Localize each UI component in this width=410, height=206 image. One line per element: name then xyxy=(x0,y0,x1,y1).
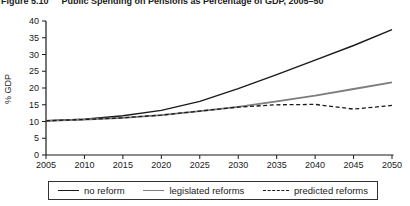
y-axis-title: % GDP xyxy=(3,74,13,104)
no-reform-line-sample-icon xyxy=(58,190,79,191)
y-axis-tick-label: 40 xyxy=(29,16,39,26)
x-axis-tick-label: 2040 xyxy=(305,160,325,170)
legend-item-no-reform: no reform xyxy=(58,185,125,196)
legend-label-no-reform: no reform xyxy=(84,185,125,196)
y-axis-tick-label: 10 xyxy=(29,117,39,127)
y-axis-tick-label: 5 xyxy=(34,133,39,143)
chart-line-legislated-reforms xyxy=(46,82,392,121)
legend-item-legislated-reforms: legislated reforms xyxy=(143,185,244,196)
y-axis-tick-label: 35 xyxy=(29,33,39,43)
x-axis-tick-label: 2050 xyxy=(382,160,402,170)
chart-legend: no reform legislated reforms predicted r… xyxy=(48,181,378,200)
x-axis-tick-label: 2010 xyxy=(74,160,94,170)
x-axis-tick-label: 2045 xyxy=(344,160,364,170)
legend-label-legislated-reforms: legislated reforms xyxy=(169,185,244,196)
legislated-reforms-line-sample-icon xyxy=(143,190,164,191)
x-axis-tick-label: 2025 xyxy=(190,160,210,170)
predicted-reforms-line-sample-icon xyxy=(263,190,289,191)
pension-spending-line-chart: 0510152025303540200520102015202020252030… xyxy=(0,0,410,178)
x-axis-tick-label: 2020 xyxy=(151,160,171,170)
x-axis-tick-label: 2035 xyxy=(267,160,287,170)
figure-page: Figure 5.10Public Spending on Pensions a… xyxy=(0,0,410,206)
legend-label-predicted-reforms: predicted reforms xyxy=(294,185,368,196)
x-axis-tick-label: 2015 xyxy=(113,160,133,170)
y-axis-tick-label: 25 xyxy=(29,66,39,76)
y-axis-tick-label: 15 xyxy=(29,100,39,110)
y-axis-tick-label: 30 xyxy=(29,50,39,60)
x-axis-tick-label: 2030 xyxy=(228,160,248,170)
chart-line-no-reform xyxy=(46,30,392,121)
legend-item-predicted-reforms: predicted reforms xyxy=(263,185,368,196)
x-axis-tick-label: 2005 xyxy=(36,160,56,170)
y-axis-tick-label: 20 xyxy=(29,83,39,93)
y-axis-tick-label: 0 xyxy=(34,150,39,160)
